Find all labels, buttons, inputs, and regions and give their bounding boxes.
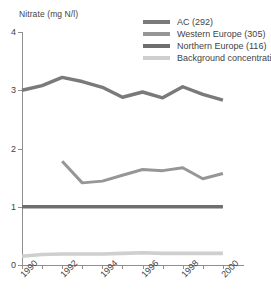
x-tick-1997 — [163, 265, 164, 269]
nitrate-line-chart: Nitrate (mg N/l) 01234 19901992199419961… — [0, 0, 271, 301]
series-line-western-europe-305 — [62, 161, 223, 183]
legend-swatch-icon-1 — [143, 32, 170, 36]
chart-legend: AC (292)Western Europe (305)Northern Eur… — [143, 16, 271, 64]
y-tick-label-0: 0 — [11, 261, 16, 270]
series-line-background-concentration — [22, 253, 223, 256]
legend-swatch-icon-0 — [143, 20, 170, 24]
legend-item-1[interactable]: Western Europe (305) — [143, 28, 271, 40]
legend-label-3: Background concentration — [177, 54, 271, 63]
series-line-ac-292 — [22, 77, 223, 100]
y-tick-label-3: 3 — [11, 86, 16, 95]
plot-area: 01234 199019921994199619982000 — [22, 32, 243, 265]
x-tick-1991 — [42, 265, 43, 269]
legend-label-1: Western Europe (305) — [177, 30, 265, 39]
series-lines — [22, 32, 243, 265]
x-tick-1993 — [82, 265, 83, 269]
legend-item-3[interactable]: Background concentration — [143, 52, 271, 64]
legend-item-2[interactable]: Northern Europe (116) — [143, 40, 271, 52]
legend-item-0[interactable]: AC (292) — [143, 16, 271, 28]
y-tick-label-2: 2 — [11, 144, 16, 153]
legend-swatch-icon-2 — [143, 44, 170, 48]
x-tick-1995 — [122, 265, 123, 269]
legend-label-0: AC (292) — [177, 18, 213, 27]
x-axis-line — [22, 265, 244, 266]
y-tick-label-1: 1 — [11, 202, 16, 211]
legend-swatch-icon-3 — [143, 56, 170, 60]
y-axis-title: Nitrate (mg N/l) — [19, 9, 78, 19]
x-tick-1999 — [203, 265, 204, 269]
y-tick-label-4: 4 — [11, 28, 16, 37]
legend-label-2: Northern Europe (116) — [177, 42, 266, 51]
